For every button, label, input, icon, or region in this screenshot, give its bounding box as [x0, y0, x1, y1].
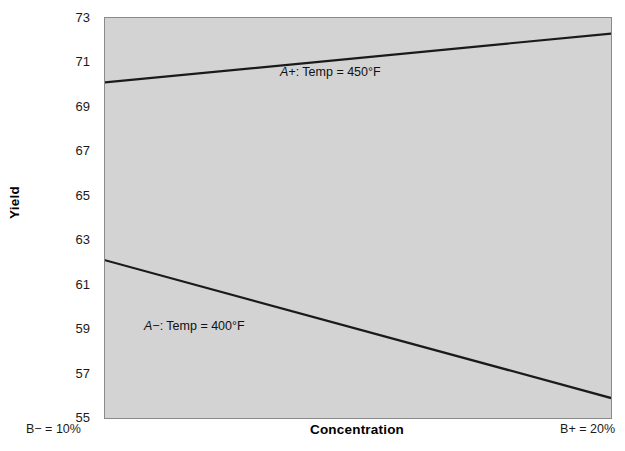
annotation-a-minus-text: : Temp = 400°F — [160, 319, 245, 333]
x-tick-label-low: B− = 10% — [26, 422, 81, 436]
y-tick-label-61: 61 — [44, 278, 90, 291]
annotation-a-plus-text: : Temp = 450°F — [296, 65, 381, 79]
annotation-a-minus-code: A− — [144, 319, 160, 333]
annotation-a-plus: A+: Temp = 450°F — [280, 66, 381, 79]
y-tick-label-63: 63 — [44, 233, 90, 246]
annotation-a-minus: A−: Temp = 400°F — [144, 320, 245, 333]
x-tick-label-high: B+ = 20% — [560, 422, 615, 436]
y-tick-label-65: 65 — [44, 189, 90, 202]
annotation-a-plus-code: A+ — [280, 65, 296, 79]
x-axis-title: Concentration — [104, 422, 610, 437]
y-axis-title: Yield — [7, 173, 22, 233]
y-tick-label-69: 69 — [44, 100, 90, 113]
y-tick-label-57: 57 — [44, 367, 90, 380]
y-tick-label-71: 71 — [44, 55, 90, 68]
y-tick-label-73: 73 — [44, 11, 90, 24]
interaction-plot: 73 71 69 67 65 63 61 59 57 55 Yield A+: … — [0, 0, 625, 451]
y-tick-label-67: 67 — [44, 144, 90, 157]
y-tick-label-59: 59 — [44, 322, 90, 335]
y-axis: 73 71 69 67 65 63 61 59 57 55 — [36, 0, 90, 451]
